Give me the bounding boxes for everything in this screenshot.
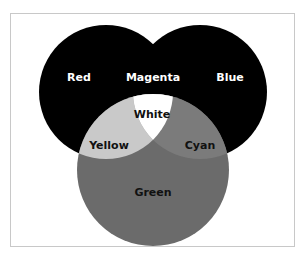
label-yellow: Yellow — [88, 139, 129, 152]
label-red: Red — [67, 71, 91, 84]
label-green: Green — [134, 186, 171, 199]
label-blue: Blue — [216, 71, 243, 84]
label-magenta: Magenta — [126, 71, 180, 84]
venn-diagram: Red Magenta Blue White Yellow Cyan Green — [0, 0, 308, 254]
label-white: White — [134, 108, 170, 121]
label-cyan: Cyan — [185, 139, 216, 152]
